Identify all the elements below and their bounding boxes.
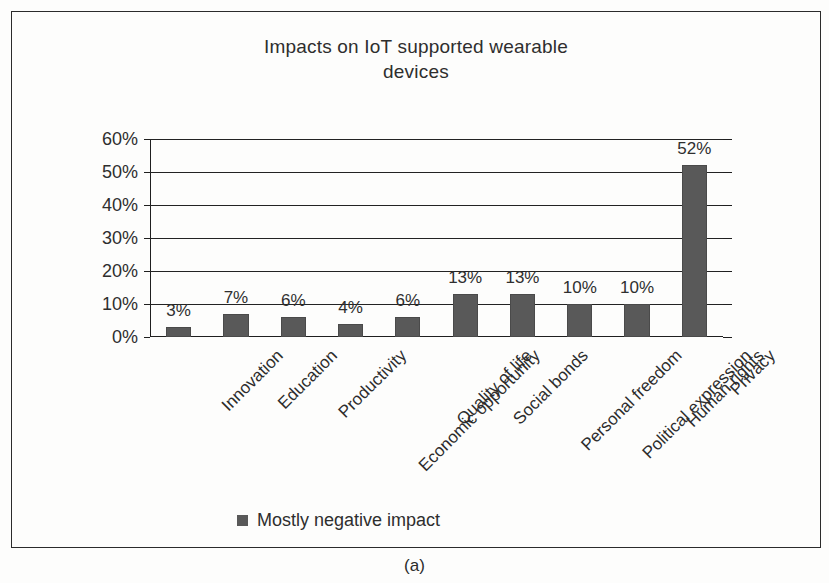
gridline-40%	[150, 205, 723, 206]
y-axis-tick-label: 0%	[112, 327, 138, 348]
y-tick-right-40%	[723, 205, 732, 206]
y-tick-right-0%	[723, 337, 732, 338]
chart-legend: Mostly negative impact	[237, 510, 440, 531]
category-label-innovation: Innovation	[218, 346, 288, 416]
bar-social-bonds[interactable]	[453, 294, 478, 337]
bar-innovation[interactable]	[166, 327, 191, 337]
y-tick-right-50%	[723, 172, 732, 173]
data-label-political-expression: 10%	[563, 278, 597, 298]
y-tick-right-30%	[723, 238, 732, 239]
bar-personal-freedom[interactable]	[510, 294, 535, 337]
bar-privacy[interactable]	[682, 165, 707, 337]
gridline-50%	[150, 172, 723, 173]
data-label-human-rights: 10%	[620, 278, 654, 298]
bar-education[interactable]	[223, 314, 248, 337]
chart-title-line-2: devices	[12, 59, 820, 84]
legend-swatch-mostly-negative-impact	[237, 515, 248, 526]
y-axis-tick-label: 60%	[102, 129, 138, 150]
legend-label-mostly-negative-impact: Mostly negative impact	[257, 510, 440, 531]
bar-productivity[interactable]	[281, 317, 306, 337]
y-tick-right-20%	[723, 271, 732, 272]
data-label-social-bonds: 13%	[448, 268, 482, 288]
bar-political-expression[interactable]	[567, 304, 592, 337]
y-tick-0%	[144, 337, 150, 338]
data-label-productivity: 6%	[281, 291, 306, 311]
chart-title-line-1: Impacts on IoT supported wearable	[12, 34, 820, 59]
y-axis-tick-label: 20%	[102, 261, 138, 282]
data-label-innovation: 3%	[166, 301, 191, 321]
data-label-quality-of-life: 6%	[396, 291, 421, 311]
data-label-economic-opportunity: 4%	[338, 298, 363, 318]
chart-title: Impacts on IoT supported wearable device…	[12, 34, 820, 84]
y-tick-60%	[144, 139, 150, 140]
data-label-personal-freedom: 13%	[505, 268, 539, 288]
gridline-30%	[150, 238, 723, 239]
bar-quality-of-life[interactable]	[395, 317, 420, 337]
y-axis-tick-label: 30%	[102, 228, 138, 249]
y-tick-40%	[144, 205, 150, 206]
figure-caption: (a)	[0, 556, 829, 576]
y-tick-right-60%	[723, 139, 732, 140]
plot-area: 0%10%20%30%40%50%60% 3%7%6%4%6%13%13%10%…	[150, 139, 723, 337]
y-tick-50%	[144, 172, 150, 173]
y-tick-30%	[144, 238, 150, 239]
y-tick-right-10%	[723, 304, 732, 305]
y-axis-tick-label: 40%	[102, 195, 138, 216]
bar-human-rights[interactable]	[624, 304, 649, 337]
y-axis-tick-label: 10%	[102, 294, 138, 315]
gridline-20%	[150, 271, 723, 272]
data-label-privacy: 52%	[677, 139, 711, 159]
gridline-60%	[150, 139, 723, 140]
figure-frame: Impacts on IoT supported wearable device…	[11, 11, 821, 548]
data-label-education: 7%	[224, 288, 249, 308]
category-label-productivity: Productivity	[335, 346, 411, 422]
y-tick-20%	[144, 271, 150, 272]
y-axis-tick-label: 50%	[102, 162, 138, 183]
y-tick-10%	[144, 304, 150, 305]
bar-economic-opportunity[interactable]	[338, 324, 363, 337]
